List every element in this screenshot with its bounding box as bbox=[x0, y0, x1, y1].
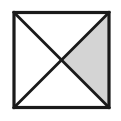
figure-container bbox=[0, 0, 121, 121]
square-diagonals-figure bbox=[0, 0, 121, 121]
